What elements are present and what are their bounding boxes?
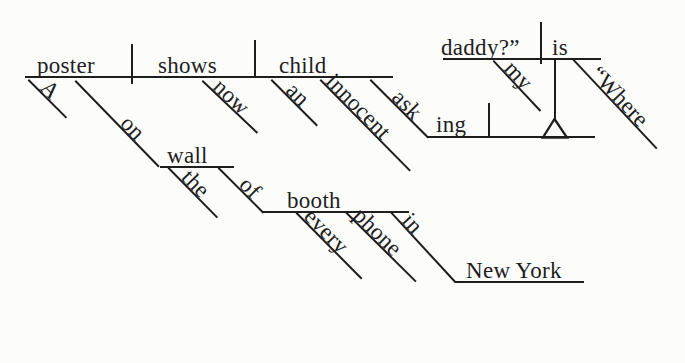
word-on: on: [116, 111, 149, 144]
word-innocent: innocent: [321, 69, 395, 143]
quote-subject-verb-divider: [540, 22, 542, 64]
word-where: “Where: [586, 62, 653, 131]
word-now: now: [209, 75, 254, 120]
article-an-slant: an: [270, 79, 318, 127]
pedestal-triangle-icon: [541, 117, 570, 140]
word-child: child: [279, 54, 327, 77]
direct-object-divider: [254, 40, 256, 78]
participle-object-divider: [488, 103, 490, 138]
word-my: my: [500, 57, 537, 95]
word-ask: ask: [388, 86, 427, 125]
article-a-slant: A: [27, 79, 67, 119]
subject-verb-divider: [131, 44, 133, 84]
pedestal-line: [554, 58, 556, 120]
word-of: of: [235, 173, 265, 203]
word-is: is: [552, 36, 568, 59]
poss-my-slant: my: [492, 60, 541, 112]
sentence-diagram: poster shows child daddy?” is ing wall b…: [0, 0, 685, 363]
word-a: A: [36, 76, 64, 104]
word-an: an: [282, 79, 314, 111]
article-the-slant: the: [167, 167, 218, 219]
word-daddy: daddy?”: [441, 36, 520, 59]
word-shows: shows: [158, 54, 217, 77]
prep-on-slant: on: [74, 80, 159, 168]
prep-of-slant: of: [217, 167, 264, 214]
adv-now-slant: now: [201, 80, 258, 134]
word-poster: poster: [37, 54, 95, 77]
word-ing: ing: [436, 113, 466, 136]
word-the: the: [177, 165, 214, 202]
word-new-york: New York: [466, 259, 562, 282]
word-wall: wall: [167, 144, 208, 167]
